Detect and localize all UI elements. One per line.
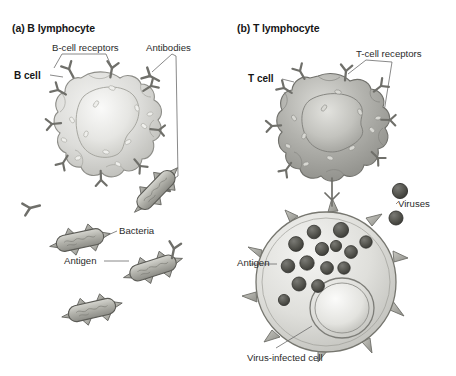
- leader-line-b-cell: [50, 75, 63, 77]
- bacteria-label: Bacteria: [119, 225, 154, 236]
- receptor-antigen-binding: [325, 178, 339, 206]
- antigen-label-panel-b: Antigen: [237, 257, 270, 268]
- bacterium: [117, 238, 190, 291]
- bacterium: [59, 289, 126, 330]
- panel-a-artwork: [22, 54, 189, 331]
- b-cell-receptors-label: B-cell receptors: [52, 42, 119, 53]
- antigen-label-panel-a: Antigen: [64, 255, 97, 266]
- panel-a-heading: (a) B lymphocyte: [12, 22, 95, 34]
- t-cell-receptors-label: T-cell receptors: [356, 48, 422, 59]
- leader-line-bacteria: [108, 231, 117, 235]
- virus-infected-cell: [242, 198, 408, 362]
- panel-b-heading: (b) T lymphocyte: [237, 22, 319, 34]
- panel-b-artwork: [242, 60, 408, 362]
- leader-line-t-cell: [282, 79, 294, 82]
- b-cell-label: B cell: [14, 70, 41, 81]
- bacteria-group: [47, 158, 190, 331]
- t-cell: [277, 74, 390, 182]
- viruses-label: Viruses: [398, 198, 430, 209]
- antibodies-label: Antibodies: [146, 42, 191, 53]
- virus-infected-cell-label: Virus-infected cell: [247, 352, 323, 363]
- b-cell: [54, 72, 161, 177]
- figure-canvas: (a) B lymphocyte (b) T lymphocyte B cell…: [0, 0, 456, 376]
- t-cell-label: T cell: [248, 73, 274, 84]
